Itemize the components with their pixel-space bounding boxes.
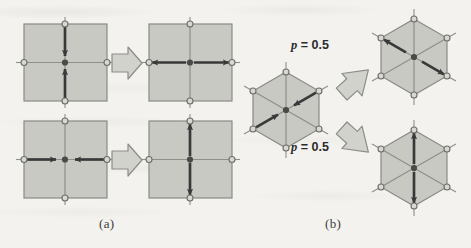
center-node (411, 54, 417, 60)
block-arrow-right-row1 (112, 47, 142, 79)
panel-label-b: (b) (325, 216, 341, 232)
square-horizontal-outward (141, 17, 240, 108)
probability-value: 0.5 (312, 38, 329, 52)
probability-value: 0.5 (312, 140, 329, 154)
panel-a (16, 17, 240, 205)
hexagon-vertical-outward (372, 120, 456, 216)
probability-equals: = (297, 140, 311, 154)
lattice-transition-figure (0, 0, 471, 248)
center-node (187, 59, 193, 65)
figure-canvas: p = 0.5 p = 0.5 (a) (b) (0, 0, 471, 248)
center-node (283, 107, 289, 113)
block-arrow-down-right (332, 117, 379, 163)
block-arrow-right-row2 (112, 144, 142, 176)
probability-equals: = (297, 38, 311, 52)
square-vertical-outward (141, 114, 240, 205)
probability-label-branch-down: p = 0.5 (291, 140, 329, 155)
center-node (187, 156, 193, 162)
panel-label-a: (a) (99, 216, 114, 232)
hexagon-diag-nw-se-outward (372, 9, 456, 105)
block-arrow-up-right (332, 59, 379, 105)
square-horizontal-inward (16, 114, 115, 205)
probability-label-branch-up: p = 0.5 (291, 38, 329, 53)
panel-b (244, 9, 456, 216)
center-node (62, 59, 68, 65)
center-node (411, 165, 417, 171)
square-vertical-inward (16, 17, 115, 108)
center-node (62, 156, 68, 162)
